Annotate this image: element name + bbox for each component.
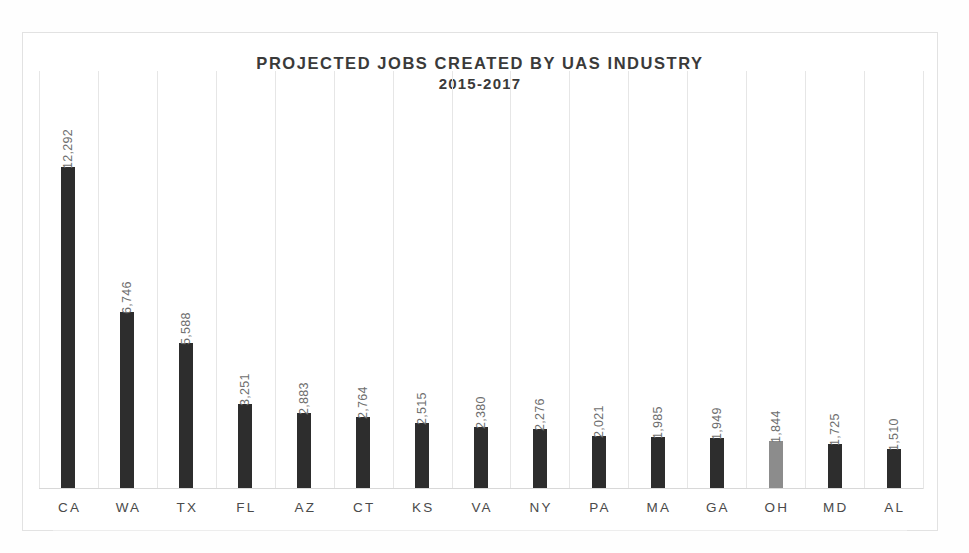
bar-value-label: 1,985 [651,406,665,439]
bar-tx[interactable] [179,343,193,489]
bar-group[interactable]: 2,380 [452,71,511,489]
bar-ks[interactable] [415,423,429,489]
category-label-wa: WA [98,495,157,521]
category-label-ca: CA [39,495,98,521]
bar-fl[interactable] [238,404,252,489]
bar-value-label: 1,725 [828,413,842,446]
bar-value-label: 1,949 [710,407,724,440]
bar-md[interactable] [828,444,842,489]
category-label-va: VA [452,495,511,521]
bar-value-label: 2,515 [415,392,429,425]
bar-value-label: 6,746 [120,281,134,314]
bar-value-label: 5,588 [179,312,193,345]
bar-value-label: 2,021 [592,405,606,438]
bar-value-label: 2,276 [533,398,547,431]
gridline [923,71,924,489]
category-label-fl: FL [216,495,275,521]
bar-wa[interactable] [120,312,134,489]
bar-group[interactable]: 6,746 [98,71,157,489]
category-label-pa: PA [569,495,628,521]
category-label-ma: MA [628,495,687,521]
scan-artifact-line [53,530,907,531]
bar-pa[interactable] [592,436,606,489]
bar-value-label: 2,764 [356,386,370,419]
bar-group[interactable]: 2,883 [275,71,334,489]
category-label-ks: KS [393,495,452,521]
category-label-oh: OH [746,495,805,521]
bar-group[interactable]: 3,251 [216,71,275,489]
bar-group[interactable]: 12,292 [39,71,98,489]
bar-ca[interactable] [61,167,75,489]
bar-group[interactable]: 1,725 [805,71,864,489]
category-label-ct: CT [334,495,393,521]
category-label-al: AL [864,495,923,521]
bar-group[interactable]: 1,985 [628,71,687,489]
bar-value-label: 2,380 [474,396,488,429]
category-label-ny: NY [511,495,570,521]
bar-ma[interactable] [651,437,665,489]
bar-series: 12,2926,7465,5883,2512,8832,7642,5152,38… [39,71,923,489]
bar-value-label: 2,883 [297,382,311,415]
bar-value-label: 3,251 [238,373,252,406]
bar-value-label: 1,844 [769,410,783,443]
bar-va[interactable] [474,427,488,489]
category-axis: CAWATXFLAZCTKSVANYPAMAGAOHMDAL [39,495,923,521]
category-label-md: MD [805,495,864,521]
bar-group[interactable]: 2,276 [511,71,570,489]
chart-frame: PROJECTED JOBS CREATED BY UAS INDUSTRY 2… [22,32,938,531]
bar-value-label: 12,292 [61,129,75,169]
bar-group[interactable]: 1,844 [746,71,805,489]
bar-oh[interactable] [769,441,783,489]
bar-group[interactable]: 2,021 [569,71,628,489]
axis-baseline [39,488,923,489]
bar-group[interactable]: 1,949 [687,71,746,489]
category-label-ga: GA [687,495,746,521]
category-label-tx: TX [157,495,216,521]
bar-value-label: 1,510 [887,418,901,451]
bar-al[interactable] [887,449,901,489]
bar-ct[interactable] [356,417,370,489]
category-label-az: AZ [275,495,334,521]
bar-group[interactable]: 2,515 [393,71,452,489]
bar-group[interactable]: 2,764 [334,71,393,489]
bar-ny[interactable] [533,429,547,489]
bar-group[interactable]: 5,588 [157,71,216,489]
bar-group[interactable]: 1,510 [864,71,923,489]
plot-area: 12,2926,7465,5883,2512,8832,7642,5152,38… [39,71,923,489]
chart-page: PROJECTED JOBS CREATED BY UAS INDUSTRY 2… [0,0,969,553]
bar-az[interactable] [297,413,311,489]
bar-ga[interactable] [710,438,724,489]
